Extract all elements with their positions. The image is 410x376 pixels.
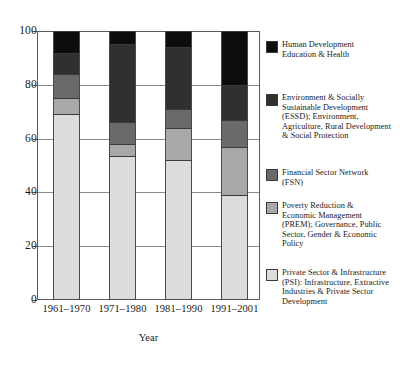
bar-segment [221,31,248,85]
y-tick-mark [32,300,37,301]
x-tick-label: 1991–2001 [200,303,270,315]
bar-segment [221,120,248,147]
bar-1971–1980 [109,31,136,300]
legend-item: Environment & Socially Sustainable Devel… [266,93,391,141]
legend-swatch-icon [266,94,278,106]
legend-label: Environment & Socially Sustainable Devel… [282,93,391,141]
bar-segment [109,44,136,122]
bar-segment [53,98,80,114]
bar-1961–1970 [53,31,80,300]
legend-label: Human Development Education & Health [282,40,354,59]
bar-segment [165,128,192,160]
legend-label: Private Sector & Infrastructure (PSI): I… [282,268,389,306]
legend-item: Poverty Reduction & Economic Management … [266,201,381,249]
stacked-bar-chart: 020406080100 1961–19701971–19801981–1990… [0,0,410,376]
bar-segment [53,114,80,300]
legend-swatch-icon [266,41,278,53]
bar-segment [109,31,136,44]
bar-segment [53,53,80,75]
bar-segment [53,31,80,53]
bars-layer [37,31,260,300]
bar-segment [221,147,248,195]
legend-item: Financial Sector Network (FSN) [266,168,368,187]
x-axis-title: Year [37,332,260,343]
bar-segment [221,85,248,120]
legend-label: Financial Sector Network (FSN) [282,168,368,187]
bar-segment [53,74,80,98]
legend-item: Human Development Education & Health [266,40,354,59]
bar-segment [165,109,192,128]
bar-segment [109,144,136,156]
legend-swatch-icon [266,169,278,181]
bar-segment [165,47,192,109]
bar-segment [165,160,192,300]
bar-segment [109,156,136,300]
legend-item: Private Sector & Infrastructure (PSI): I… [266,268,389,306]
legend-label: Poverty Reduction & Economic Management … [282,201,381,249]
bar-1991–2001 [221,31,248,300]
y-axis: 020406080100 [0,31,37,300]
legend-swatch-icon [266,202,278,214]
bar-segment [221,195,248,300]
legend-swatch-icon [266,269,278,281]
bar-1981–1990 [165,31,192,300]
bar-segment [165,31,192,47]
bar-segment [109,122,136,144]
